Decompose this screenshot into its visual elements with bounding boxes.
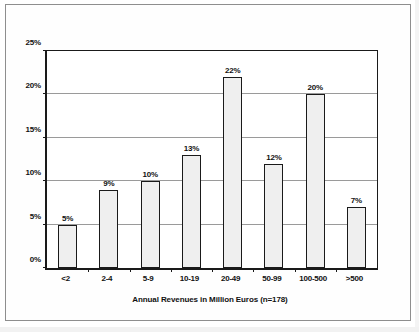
- x-axis-tick-label: 20-49: [210, 274, 251, 283]
- x-axis-tick-label: 100-500: [293, 274, 334, 283]
- x-axis-tick-mark: [253, 268, 254, 272]
- bar: 7%: [347, 207, 366, 268]
- y-axis-tick-label: 10%: [26, 168, 41, 177]
- x-axis-title: Annual Revenues in Million Euros (n=178): [45, 295, 375, 304]
- scan-edge-bottom: [0, 327, 419, 332]
- bar: 9%: [99, 190, 118, 268]
- bar-value-label: 12%: [266, 153, 281, 162]
- bar-slot: 20%: [295, 51, 336, 268]
- x-axis-tick-mark: [336, 268, 337, 272]
- x-axis-tick-label: 5-9: [128, 274, 169, 283]
- bar: 12%: [264, 164, 283, 268]
- bar-value-label: 5%: [62, 214, 73, 223]
- x-axis-tick-label: 10-19: [169, 274, 210, 283]
- bar: 5%: [58, 225, 77, 268]
- bar-value-label: 20%: [307, 83, 322, 92]
- bar-slot: 13%: [171, 51, 212, 268]
- plot-area: 0%5%10%15%20%25% 5%9%10%13%22%12%20%7%: [45, 50, 378, 270]
- bar: 20%: [306, 94, 325, 268]
- x-axis-tick-mark: [88, 268, 89, 272]
- bar-slot: 5%: [47, 51, 88, 268]
- bar-slot: 9%: [88, 51, 129, 268]
- y-axis-tick-label: 5%: [30, 211, 41, 220]
- y-axis-tick-label: 0%: [30, 255, 41, 264]
- x-axis-tick-mark: [130, 268, 131, 272]
- scan-edge-right: [415, 0, 419, 332]
- y-axis-tick-label: 20%: [26, 81, 41, 90]
- bar-value-label: 7%: [351, 196, 362, 205]
- x-axis-tick-labels: <22-45-910-1920-4950-99100-500>500: [45, 274, 375, 283]
- x-axis-tick-label: 50-99: [251, 274, 292, 283]
- y-axis-tick-label: 15%: [26, 124, 41, 133]
- y-axis-tick-label: 25%: [26, 38, 41, 47]
- x-axis-tick-mark: [171, 268, 172, 272]
- bar-value-label: 22%: [225, 66, 240, 75]
- bar: 13%: [182, 155, 201, 268]
- bar-slot: 12%: [253, 51, 294, 268]
- bar-value-label: 10%: [142, 170, 157, 179]
- x-axis-tick-label: >500: [334, 274, 375, 283]
- bar-series: 5%9%10%13%22%12%20%7%: [47, 51, 377, 268]
- bar-value-label: 13%: [184, 144, 199, 153]
- bar-slot: 10%: [130, 51, 171, 268]
- x-axis-tick-mark: [212, 268, 213, 272]
- x-axis-tick-label: <2: [45, 274, 86, 283]
- chart-figure: 0%5%10%15%20%25% 5%9%10%13%22%12%20%7% <…: [0, 0, 419, 332]
- x-axis-tick-mark: [295, 268, 296, 272]
- bar: 22%: [223, 77, 242, 268]
- bar-slot: 22%: [212, 51, 253, 268]
- bar-value-label: 9%: [103, 179, 114, 188]
- x-axis-tick-label: 2-4: [86, 274, 127, 283]
- bar-slot: 7%: [336, 51, 377, 268]
- bar: 10%: [141, 181, 160, 268]
